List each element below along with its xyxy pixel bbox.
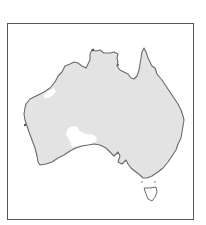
island-dot (92, 49, 95, 52)
island-dot (117, 64, 119, 66)
australia-map (0, 0, 206, 225)
mainland-shape (24, 48, 184, 178)
island-dot (141, 181, 143, 183)
island-dot (24, 124, 26, 126)
tasmania-shape (144, 187, 157, 201)
island-dot (154, 181, 156, 183)
